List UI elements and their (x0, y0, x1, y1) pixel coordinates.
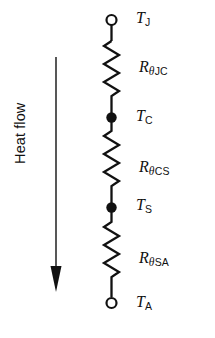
node-label-tj: TJ (136, 10, 150, 26)
resistor-symbol-rsa: R (139, 249, 149, 266)
resistor-symbol-rjc: R (139, 58, 149, 75)
resistor-subscript-theta-rcs: θ (149, 165, 155, 177)
heat-flow-arrow (51, 57, 62, 292)
heat-flow-label: Heat flow (13, 91, 28, 175)
node-subscript-tj: J (145, 16, 150, 28)
node-label-ta: TA (136, 294, 152, 310)
resistor-network (104, 25, 119, 297)
node-label-ts: TS (136, 197, 152, 213)
terminal-marker-tj (107, 15, 117, 25)
resistor-symbol-rcs: R (139, 158, 149, 175)
resistor-subscript-rjc: JC (155, 65, 168, 77)
resistor-subscript-theta-rjc: θ (149, 65, 155, 77)
resistor-subscript-rcs: CS (155, 165, 170, 177)
node-marker-tc (106, 112, 116, 122)
node-subscript-ts: S (145, 203, 152, 215)
resistor-subscript-theta-rsa: θ (149, 256, 155, 268)
node-marker-ts (106, 202, 116, 212)
thermal-resistance-diagram: Heat flow TJ TC TS TA RθJC RθCS RθSA (0, 0, 215, 338)
resistor-label-rsa: RθSA (139, 250, 169, 266)
node-label-tc: TC (136, 108, 153, 124)
resistor-rsa-zigzag (104, 211, 119, 297)
node-symbol-tc: T (136, 107, 145, 124)
resistor-subscript-rsa: SA (155, 256, 169, 268)
node-subscript-ta: A (145, 300, 152, 312)
resistor-rjc-zigzag (104, 41, 119, 114)
node-symbol-tj: T (136, 9, 145, 26)
heat-flow-arrow-head (51, 266, 62, 292)
terminal-marker-ta (107, 298, 117, 308)
schematic-drawing (0, 0, 215, 338)
resistor-label-rcs: RθCS (139, 159, 170, 175)
resistor-rcs-zigzag (104, 121, 119, 204)
node-symbol-ta: T (136, 293, 145, 310)
node-subscript-tc: C (145, 114, 153, 126)
node-symbol-ts: T (136, 196, 145, 213)
resistor-label-rjc: RθJC (139, 59, 168, 75)
